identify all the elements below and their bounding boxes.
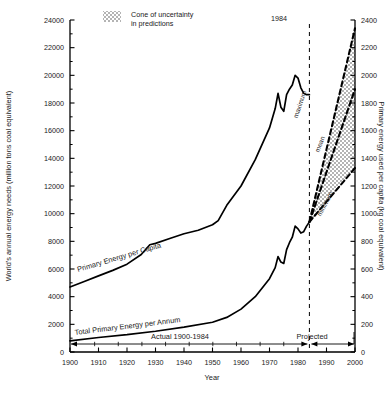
energy-projection-chart: 0200040006000800010000120001400016000180… xyxy=(0,0,390,401)
x-tick: 1900 xyxy=(62,358,78,367)
y-tick-right: 400 xyxy=(361,292,373,301)
y-tick-left: 20000 xyxy=(44,71,64,80)
x-tick: 1990 xyxy=(319,358,335,367)
y-tick-right: 200 xyxy=(361,320,373,329)
divider-year-label: 1984 xyxy=(271,14,287,23)
actual-span-label: Actual 1900-1984 xyxy=(151,332,209,341)
y-tick-right: 1200 xyxy=(361,182,377,191)
y-tick-left: 4000 xyxy=(48,292,64,301)
y-tick-right: 600 xyxy=(361,265,373,274)
projected-span-label: Projected xyxy=(296,332,327,341)
y-axis-label-right: Primary energy used per capita (kg coal … xyxy=(377,102,386,271)
y-tick-left: 2000 xyxy=(48,320,64,329)
y-tick-left: 6000 xyxy=(48,265,64,274)
x-tick: 1970 xyxy=(262,358,278,367)
x-tick: 1950 xyxy=(205,358,221,367)
y-tick-left: 16000 xyxy=(44,126,64,135)
legend-swatch-cone xyxy=(103,11,121,22)
x-tick: 1930 xyxy=(148,358,164,367)
y-tick-left: 14000 xyxy=(44,154,64,163)
y-tick-right: 2400 xyxy=(361,16,377,25)
y-tick-right: 1000 xyxy=(361,209,377,218)
x-tick: 2000 xyxy=(347,358,363,367)
x-tick: 1960 xyxy=(233,358,249,367)
y-tick-right: 2000 xyxy=(361,71,377,80)
legend-label-line2: in predictions xyxy=(131,19,174,28)
y-tick-left: 10000 xyxy=(44,209,64,218)
y-tick-left: 18000 xyxy=(44,99,64,108)
x-axis-label: Year xyxy=(205,373,220,382)
y-tick-right: 1400 xyxy=(361,154,377,163)
y-tick-right: 1600 xyxy=(361,126,377,135)
y-tick-left: 0 xyxy=(60,348,64,357)
y-tick-right: 800 xyxy=(361,237,373,246)
legend-label-line1: Cone of uncertainty xyxy=(131,10,194,19)
y-tick-left: 12000 xyxy=(44,182,64,191)
y-tick-right: 2200 xyxy=(361,43,377,52)
y-tick-left: 8000 xyxy=(48,237,64,246)
y-tick-left: 22000 xyxy=(44,43,64,52)
chart-figure: 0200040006000800010000120001400016000180… xyxy=(0,0,390,401)
x-tick: 1980 xyxy=(290,358,306,367)
x-tick: 1910 xyxy=(91,358,107,367)
y-tick-right: 0 xyxy=(361,348,365,357)
y-tick-right: 1800 xyxy=(361,99,377,108)
y-tick-left: 24000 xyxy=(44,16,64,25)
x-tick: 1920 xyxy=(119,358,135,367)
y-axis-label-left: World's annual energy needs (million ton… xyxy=(4,91,13,282)
x-tick: 1940 xyxy=(176,358,192,367)
